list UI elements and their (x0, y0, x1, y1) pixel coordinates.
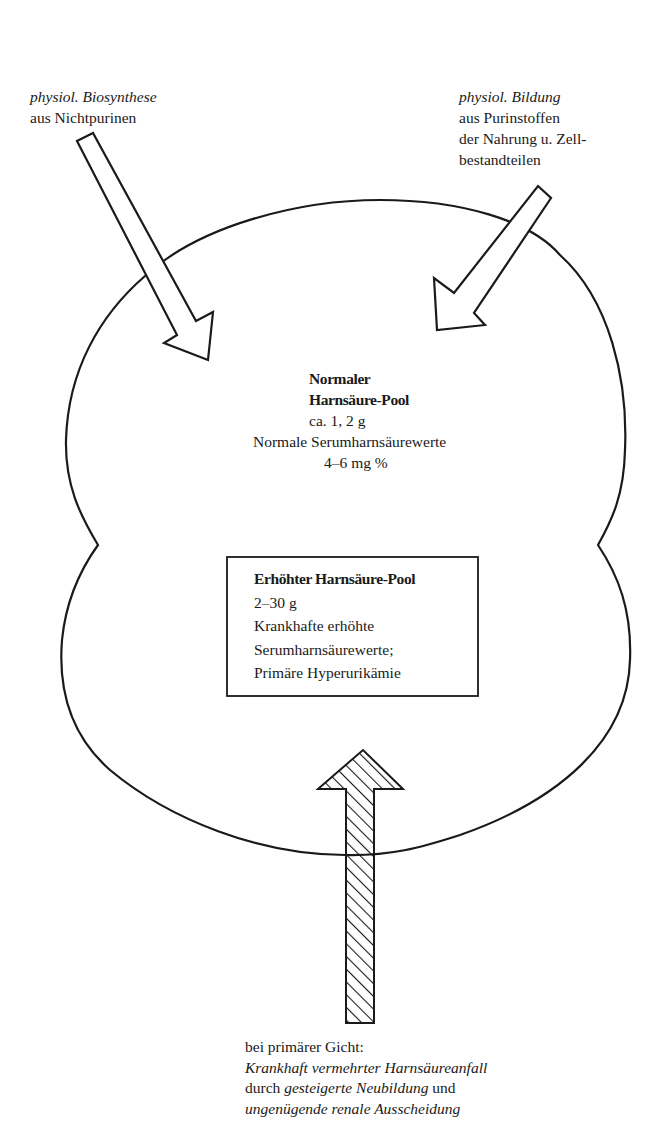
normal-pool-title-1: Normaler (238, 368, 538, 389)
normal-pool-label: Normaler Harnsäure-Pool ca. 1, 2 g Norma… (238, 368, 538, 473)
normal-pool-title-2: Harnsäure-Pool (238, 389, 538, 410)
gout-caption: bei primärer Gicht: Krankhaft vermehrter… (245, 1037, 487, 1119)
elevated-pool-line4: Serumharnsäurewerte; (254, 638, 415, 662)
right-input-label: physiol. Bildung aus Purinstoffen der Na… (459, 86, 586, 170)
gout-caption-line3-suffix: und (428, 1079, 455, 1096)
elevated-pool-amount: 2–30 g (254, 591, 415, 615)
gout-caption-line3-italic: gesteigerte Neubildung (284, 1079, 428, 1096)
left-input-subtitle: aus Nichtpurinen (30, 107, 157, 128)
right-input-title: physiol. Bildung (459, 86, 586, 107)
normal-serum-value: 4–6 mg % (238, 452, 538, 473)
elevated-pool-line3: Krankhafte erhöhte (254, 614, 415, 638)
normal-serum-label: Normale Serumharnsäurewerte (238, 431, 538, 452)
right-input-line2: aus Purinstoffen (459, 107, 586, 128)
right-input-line4: bestandteilen (459, 149, 586, 170)
normal-pool-amount: ca. 1, 2 g (238, 410, 538, 431)
gout-caption-line3-prefix: durch (245, 1079, 284, 1096)
uric-acid-pool-outline (61, 200, 630, 855)
left-input-title: physiol. Biosynthese (30, 86, 157, 107)
elevated-pool-title: Erhöhter Harnsäure-Pool (254, 567, 415, 591)
gout-caption-line3: durch gesteigerte Neubildung und (245, 1078, 487, 1099)
elevated-pool-label: Erhöhter Harnsäure-Pool 2–30 g Krankhaft… (254, 567, 415, 685)
elevated-pool-line5: Primäre Hyperurikämie (254, 661, 415, 685)
gout-caption-line4: ungenügende renale Ausscheidung (245, 1099, 487, 1120)
left-input-label: physiol. Biosynthese aus Nichtpurinen (30, 86, 157, 128)
gout-caption-line1: bei primärer Gicht: (245, 1037, 487, 1058)
gout-caption-line2: Krankhaft vermehrter Harnsäureanfall (245, 1058, 487, 1079)
right-input-line3: der Nahrung u. Zell- (459, 128, 586, 149)
